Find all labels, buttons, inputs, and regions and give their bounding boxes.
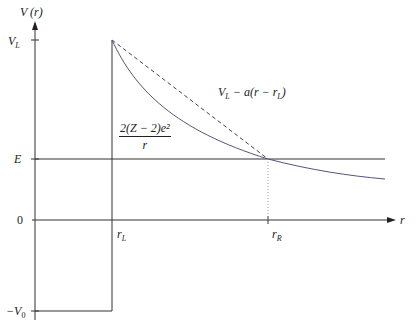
y-axis-label: V (r) <box>20 6 43 18</box>
E-label: E <box>14 153 21 165</box>
negV0-label: −V0 <box>6 305 25 320</box>
potential-diagram <box>0 0 418 329</box>
x-axis-label: r <box>400 214 405 226</box>
zero-label: 0 <box>17 214 23 226</box>
linear-approx-label: VL − a(r − rL) <box>218 86 286 101</box>
coulomb-denominator: r <box>119 137 171 151</box>
potential-well <box>35 40 112 311</box>
coulomb-label: 2(Z − 2)e² r <box>119 122 171 151</box>
x-axis-arrow-icon <box>387 217 396 223</box>
rL-label: rL <box>117 228 126 243</box>
coulomb-curve <box>112 40 385 179</box>
coulomb-numerator: 2(Z − 2)e² <box>119 122 171 137</box>
VL-label: VL <box>8 35 20 50</box>
rR-label: rR <box>272 228 282 243</box>
y-axis-arrow-icon <box>32 21 38 30</box>
